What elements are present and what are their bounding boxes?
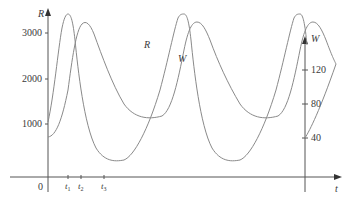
t-axis-arrow-icon (334, 174, 342, 180)
r-curve-label: R (143, 39, 150, 50)
t-axis-label: t (335, 183, 338, 194)
r-curve (48, 14, 307, 161)
w-axis-label: W (311, 33, 321, 44)
t3-label: t3 (101, 181, 107, 192)
r-axis-arrow-icon (45, 8, 51, 16)
w-tick-120: 120 (311, 64, 326, 75)
r-tick-2000: 2000 (22, 73, 42, 84)
r-tick-3000: 3000 (22, 27, 42, 38)
w-curve-label: W (178, 53, 188, 64)
t2-label: t2 (78, 181, 84, 192)
r-axis-label: R (37, 8, 44, 19)
w-curve (48, 22, 336, 138)
origin-label: 0 (38, 181, 43, 192)
t1-label: t1 (65, 181, 71, 192)
predator-prey-chart: R W t 0 3000 2000 1000 120 80 40 t1 t2 t… (0, 0, 356, 199)
r-tick-1000: 1000 (22, 118, 42, 129)
w-tick-40: 40 (311, 132, 321, 143)
w-tick-80: 80 (311, 98, 321, 109)
